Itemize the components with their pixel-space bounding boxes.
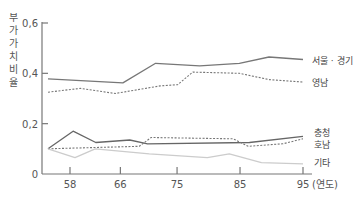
y-axis-label-char: 부 [9, 12, 18, 23]
y-axis-label-char: 율 [9, 77, 18, 88]
y-tick-label: 0,2 [22, 119, 38, 130]
line-chart-svg: 부가가치비율 00,20,40,65866758595(연도) 서울 · 경기영… [0, 0, 353, 201]
chart: 부가가치비율 00,20,40,65866758595(연도) 서울 · 경기영… [0, 0, 353, 201]
x-tick-label: 66 [114, 179, 127, 190]
series-label: 서울 · 경기 [312, 55, 353, 66]
series-label: 호남 [314, 140, 330, 150]
series-label: 충청 [314, 128, 330, 138]
series-lines [48, 57, 303, 164]
series-line-0 [48, 57, 303, 83]
series-line-4 [48, 149, 303, 164]
series-line-1 [48, 72, 303, 93]
y-tick-label: 0 [32, 169, 38, 180]
y-axis-label: 부가가치비율 [9, 12, 18, 88]
x-tick-label: 75 [171, 179, 184, 190]
x-axis-unit-label: (연도) [312, 179, 338, 190]
y-tick-label: 0,6 [22, 18, 38, 29]
series-label: 영남 [312, 78, 328, 88]
series-labels: 서울 · 경기영남충청호남기타 [312, 55, 353, 168]
y-axis-label-char: 가 [9, 38, 18, 49]
axes [42, 22, 312, 174]
x-tick-label: 85 [234, 179, 247, 190]
series-label: 기타 [314, 158, 331, 168]
y-axis-label-char: 비 [9, 64, 18, 75]
y-axis-label-char: 가 [9, 25, 18, 36]
series-line-2 [48, 131, 303, 149]
x-tick-label: 58 [64, 179, 77, 190]
y-tick-label: 0,4 [22, 68, 38, 79]
y-axis-label-char: 치 [9, 51, 18, 62]
x-tick-label: 95 [297, 179, 310, 190]
ticks: 00,20,40,65866758595(연도) [22, 18, 338, 190]
